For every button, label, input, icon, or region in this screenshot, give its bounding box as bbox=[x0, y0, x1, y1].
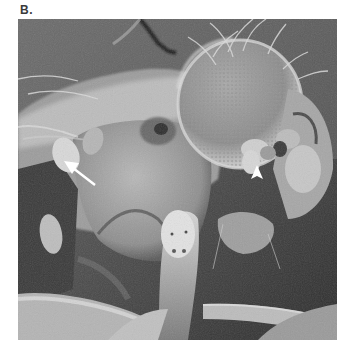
sem-micrograph bbox=[18, 19, 337, 340]
sem-image bbox=[18, 19, 337, 340]
noise-texture bbox=[18, 19, 337, 340]
panel-label: B. bbox=[20, 3, 33, 17]
